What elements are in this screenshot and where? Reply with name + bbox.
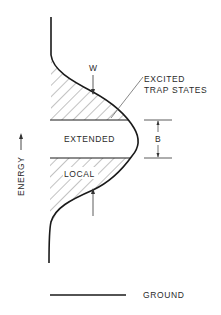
ground-label: GROUND xyxy=(143,290,184,300)
energy-axis-label: ENERGY xyxy=(16,157,26,197)
excited-label-line1: EXCITED xyxy=(144,74,185,84)
energy-arrowhead-icon xyxy=(19,133,23,139)
local-label: LOCAL xyxy=(64,169,95,179)
upper-hatched-region xyxy=(44,50,144,125)
extended-label: EXTENDED xyxy=(64,134,115,144)
excited-label-line2: TRAP STATES xyxy=(144,85,207,95)
energy-band-diagram: W EXCITED TRAP STATES EXTENDED LOCAL B E… xyxy=(0,0,221,315)
b-label: B xyxy=(155,134,161,144)
b-up-arrowhead-icon xyxy=(157,121,160,126)
b-down-arrowhead-icon xyxy=(157,153,160,158)
excited-leader-line xyxy=(111,77,143,118)
w-label: W xyxy=(89,63,98,73)
